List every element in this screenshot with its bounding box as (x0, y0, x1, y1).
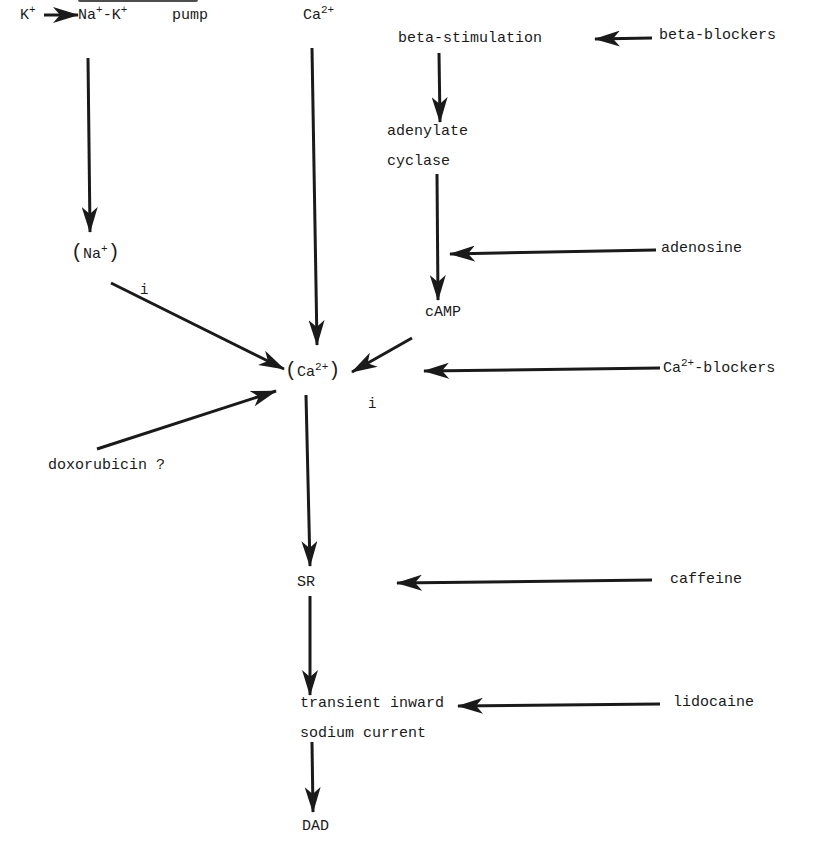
blockers-label: -blockers (694, 360, 775, 377)
arrow-betastim-to-adenylate (439, 53, 440, 122)
node-ca-intracellular: (Ca2+) (285, 362, 340, 382)
k-charge: + (29, 4, 36, 16)
arrow-doxorubicin-to-cai (97, 391, 276, 449)
node-beta-stimulation: beta-stimulation (398, 30, 542, 48)
arrow-na-to-cai (111, 283, 284, 369)
close-paren: ) (328, 359, 340, 382)
k-charge: + (121, 4, 128, 16)
ca-label: Ca (297, 364, 315, 381)
ca-subscript-i: i (368, 396, 376, 412)
open-paren: ( (71, 241, 83, 264)
k-label: K (20, 7, 29, 24)
node-adenosine: adenosine (661, 240, 742, 258)
arrow-lidocaine-to-transient (458, 704, 660, 706)
arrow-ca-to-cai (312, 48, 317, 345)
close-paren: ) (108, 241, 120, 264)
node-lidocaine: lidocaine (673, 694, 754, 712)
arrow-caffeine-to-sr (397, 580, 652, 583)
node-ca-extracellular: Ca2+ (303, 7, 334, 25)
node-cyclase: cyclase (387, 153, 450, 171)
k-label: -K (103, 7, 121, 24)
node-adenylate: adenylate (387, 123, 468, 141)
node-dad: DAD (302, 818, 329, 836)
arrow-pump-to-na (88, 58, 90, 232)
node-doxorubicin: doxorubicin ? (48, 457, 165, 475)
node-transient-inward: transient inward (300, 695, 444, 713)
arrow-betablockers-to-betastim (595, 38, 652, 39)
na-label: Na (83, 246, 101, 263)
arrow-adenosine (450, 250, 656, 254)
ca-label: Ca (663, 360, 681, 377)
open-paren: ( (285, 359, 297, 382)
na-subscript-i: i (140, 282, 148, 298)
ca-charge: 2+ (321, 4, 334, 16)
node-pump-word: pump (172, 7, 208, 25)
arrow-transient-to-dad (312, 742, 313, 812)
pathway-diagram: K+ Na+-K+ pump Ca2+ beta-stimulation bet… (0, 0, 840, 861)
node-ca-blockers: Ca2+-blockers (663, 360, 775, 378)
arrow-cablockers (424, 368, 660, 371)
arrow-adenylate-to-camp (437, 174, 438, 300)
node-na-k-pump: Na+-K+ (78, 7, 127, 25)
ca-charge: 2+ (681, 357, 694, 369)
arrow-camp-to-cai (352, 338, 412, 372)
node-na-intracellular: (Na+) (71, 244, 120, 264)
arrow-cai-to-sr (306, 395, 310, 566)
na-charge: + (96, 4, 103, 16)
node-sr: SR (297, 574, 315, 592)
node-sodium-current: sodium current (300, 725, 426, 743)
na-label: Na (78, 7, 96, 24)
node-camp: cAMP (425, 304, 461, 322)
ca-charge: 2+ (315, 361, 328, 373)
ca-label: Ca (303, 7, 321, 24)
node-beta-blockers: beta-blockers (659, 27, 776, 45)
node-caffeine: caffeine (670, 571, 742, 589)
na-charge: + (101, 243, 108, 255)
node-k-plus: K+ (20, 7, 36, 25)
